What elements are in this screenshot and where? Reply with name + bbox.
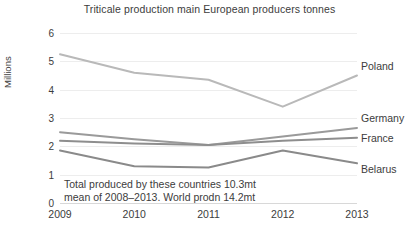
y-tick-label: 1 bbox=[8, 169, 54, 180]
chart-container: Triticale production main European produ… bbox=[0, 0, 419, 236]
x-tick-label: 2010 bbox=[123, 208, 146, 220]
series-line-belarus bbox=[60, 151, 357, 168]
series-label-france: France bbox=[361, 132, 394, 144]
axis-baseline bbox=[60, 203, 357, 204]
x-axis-tick-labels: 20092010201120122013 bbox=[60, 208, 357, 226]
chart-annotation: Total produced by these countries 10.3mt… bbox=[64, 178, 256, 203]
y-tick-label: 3 bbox=[8, 113, 54, 124]
y-tick-label: 6 bbox=[8, 28, 54, 39]
series-label-belarus: Belarus bbox=[361, 163, 397, 175]
chart-title: Triticale production main European produ… bbox=[0, 3, 419, 15]
y-tick-label: 0 bbox=[8, 198, 54, 209]
y-tick-label: 2 bbox=[8, 141, 54, 152]
annotation-line-1: Total produced by these countries 10.3mt bbox=[64, 178, 256, 191]
series-label-poland: Poland bbox=[361, 60, 394, 72]
series-line-france bbox=[60, 138, 357, 145]
annotation-line-2: mean of 2008–2013. World prodn 14.2mt bbox=[64, 191, 256, 204]
y-axis-tick-labels: 0123456 bbox=[6, 33, 54, 203]
x-tick-label: 2013 bbox=[345, 208, 368, 220]
x-tick-label: 2009 bbox=[48, 208, 71, 220]
series-line-poland bbox=[60, 54, 357, 106]
x-tick-label: 2012 bbox=[271, 208, 294, 220]
series-label-germany: Germany bbox=[361, 112, 404, 124]
x-tick-label: 2011 bbox=[197, 208, 220, 220]
y-tick-label: 5 bbox=[8, 56, 54, 67]
y-tick-label: 4 bbox=[8, 84, 54, 95]
